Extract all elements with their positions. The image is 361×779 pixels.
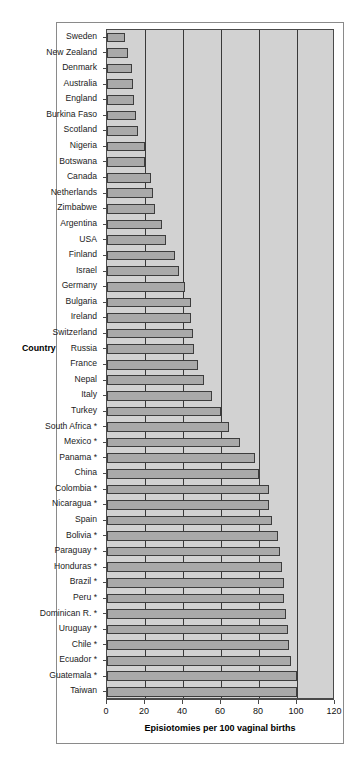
bar-row xyxy=(107,669,333,685)
bar-row xyxy=(107,591,333,607)
bar-row xyxy=(107,295,333,311)
y-axis-label: New Zealand xyxy=(46,45,97,61)
bar xyxy=(107,33,125,43)
y-axis-label: England xyxy=(65,91,97,107)
y-axis-label: Canada xyxy=(67,169,97,185)
episiotomy-bar-chart: SwedenNew ZealandDenmarkAustraliaEngland… xyxy=(0,0,361,779)
bar-row xyxy=(107,77,333,93)
y-axis-label: Dominican R. * xyxy=(40,606,97,622)
bar xyxy=(107,111,136,121)
bar xyxy=(107,235,166,245)
y-axis-label: Peru * xyxy=(73,590,97,606)
y-axis-label: Nepal xyxy=(75,372,97,388)
x-axis-tick xyxy=(296,700,297,704)
bar-row xyxy=(107,529,333,545)
y-axis-label: Nicaragua * xyxy=(52,496,97,512)
bar-row xyxy=(107,373,333,389)
bar xyxy=(107,609,286,619)
y-axis-label: Turkey xyxy=(71,403,97,419)
y-axis-label: Guatemala * xyxy=(49,668,97,684)
bar-row xyxy=(107,544,333,560)
y-axis-label: Australia xyxy=(64,76,97,92)
bar-row xyxy=(107,310,333,326)
bar-row xyxy=(107,435,333,451)
bar-row xyxy=(107,684,333,700)
bar-row xyxy=(107,326,333,342)
y-axis-label: Ecuador * xyxy=(59,652,97,668)
bar xyxy=(107,453,255,463)
bar-row xyxy=(107,638,333,654)
y-axis-label: Panama * xyxy=(59,450,97,466)
bar-row xyxy=(107,653,333,669)
y-axis-label: Bulgaria xyxy=(65,294,97,310)
y-axis-label: Italy xyxy=(81,387,97,403)
bar xyxy=(107,157,145,167)
y-axis-label: Zimbabwe xyxy=(57,200,97,216)
y-axis-label: France xyxy=(70,356,97,372)
bar xyxy=(107,671,297,681)
bar-row xyxy=(107,155,333,171)
y-axis-label: China xyxy=(75,465,97,481)
y-axis-label: Mexico * xyxy=(64,434,97,450)
y-axis-title: Country xyxy=(22,341,56,357)
bar-row xyxy=(107,342,333,358)
bar xyxy=(107,360,198,370)
bar xyxy=(107,282,185,292)
y-axis-label: Honduras * xyxy=(54,559,97,575)
plot-area xyxy=(106,29,334,699)
bar-row xyxy=(107,622,333,638)
bar xyxy=(107,594,284,604)
bar-row xyxy=(107,497,333,513)
bar-row xyxy=(107,482,333,498)
bar-row xyxy=(107,420,333,436)
bar xyxy=(107,79,133,89)
bar xyxy=(107,422,229,432)
y-axis-label: South Africa * xyxy=(45,419,97,435)
bar-row xyxy=(107,513,333,529)
y-axis-label: Finland xyxy=(69,247,97,263)
bar xyxy=(107,313,191,323)
x-axis-tick xyxy=(258,700,259,704)
bar-row xyxy=(107,30,333,46)
y-axis-category-labels: SwedenNew ZealandDenmarkAustraliaEngland… xyxy=(0,29,103,699)
bar-row xyxy=(107,46,333,62)
bar xyxy=(107,220,162,230)
bar-row xyxy=(107,466,333,482)
bar xyxy=(107,126,138,136)
bar xyxy=(107,438,240,448)
bar-row xyxy=(107,217,333,233)
bar xyxy=(107,469,259,479)
bar xyxy=(107,204,155,214)
y-axis-label: Denmark xyxy=(62,60,97,76)
bar xyxy=(107,531,278,541)
x-axis-tick-label: 100 xyxy=(288,706,303,716)
bar-row xyxy=(107,388,333,404)
bar-row xyxy=(107,201,333,217)
bar-row xyxy=(107,123,333,139)
bar xyxy=(107,485,269,495)
x-axis-tick xyxy=(220,700,221,704)
x-axis-tick xyxy=(144,700,145,704)
x-axis-title: Episiotomies per 100 vaginal births xyxy=(106,723,334,733)
bar-row xyxy=(107,560,333,576)
bar-row xyxy=(107,607,333,623)
y-axis-label: Botswana xyxy=(59,154,97,170)
bar xyxy=(107,547,280,557)
bar-row xyxy=(107,108,333,124)
bar-row xyxy=(107,264,333,280)
bar xyxy=(107,562,282,572)
bar xyxy=(107,251,175,261)
bar xyxy=(107,578,284,588)
x-axis-tick xyxy=(334,700,335,704)
y-axis-label: USA xyxy=(79,232,97,248)
y-axis-label: Russia xyxy=(71,341,97,357)
y-axis-label: Uruguay * xyxy=(59,621,97,637)
y-axis-label: Ireland xyxy=(71,309,97,325)
bar xyxy=(107,391,212,401)
bar-row xyxy=(107,92,333,108)
bar xyxy=(107,407,221,417)
bar-row xyxy=(107,248,333,264)
x-axis-tick-label: 120 xyxy=(326,706,341,716)
y-axis-label: Netherlands xyxy=(51,185,97,201)
x-axis-tick xyxy=(106,700,107,704)
